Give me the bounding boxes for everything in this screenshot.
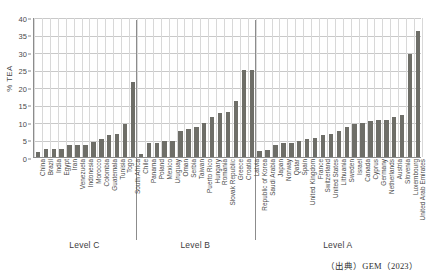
chart-figure: 0510152025303540 % TEA ChinaBrazilIndiaE… (0, 0, 426, 274)
x-axis-tick-label: Romania (221, 159, 228, 185)
bar (162, 141, 166, 157)
bar (147, 143, 151, 157)
y-axis-title: % TEA (5, 49, 14, 109)
y-axis-tick-mark (28, 141, 31, 142)
x-axis-tick-label: United Arab Emirates (419, 159, 426, 220)
group-caption: Level B (180, 240, 210, 250)
x-axis-tick-label: Serbia (190, 159, 197, 178)
bar (178, 131, 182, 157)
bar (99, 139, 103, 157)
bar (281, 143, 285, 157)
bar (416, 31, 420, 157)
x-axis-tick-label: Qatar (293, 159, 300, 175)
x-axis-tick-label: Latvia (253, 159, 260, 176)
x-axis-tick-label: India (55, 159, 62, 173)
y-axis-tick-label: 35 (18, 32, 27, 41)
source-note: （出典）GEM（2023） (326, 259, 419, 271)
bars-layer (34, 18, 421, 157)
x-axis-tick-label: Oman (182, 159, 189, 177)
bar (250, 70, 254, 158)
x-axis-tick-label: Japan (277, 159, 284, 177)
bar (123, 124, 127, 157)
bar (360, 123, 364, 157)
x-axis-tick-label: Colombia (103, 159, 110, 186)
x-axis-tick-label: Canada (364, 159, 371, 182)
y-axis-tick-label: 30 (18, 49, 27, 58)
bar (36, 152, 40, 157)
bar (226, 112, 230, 158)
x-axis-tick-label: Republic of Korea (261, 159, 268, 211)
x-axis-tick-label: South Africa (134, 159, 141, 194)
bar (376, 120, 380, 157)
y-axis-tick-mark (28, 158, 31, 159)
bar (75, 145, 79, 157)
x-axis-tick-label: Slovenia (404, 159, 411, 184)
group-caption: Level C (69, 240, 99, 250)
x-axis-tick-label: Lithuania (340, 159, 347, 185)
x-axis-tick-label: United Kingdom (309, 159, 316, 205)
x-axis-tick-label: Egypt (63, 159, 70, 176)
bar (218, 113, 222, 157)
y-axis-tick-mark (28, 106, 31, 107)
group-captions: Level CLevel BLevel A (0, 240, 426, 254)
bar (305, 139, 309, 157)
bar (345, 127, 349, 157)
bar (91, 142, 95, 157)
y-axis-tick-mark (28, 71, 31, 72)
x-axis-tick-label: Israel (356, 159, 363, 175)
y-axis-tick-mark (28, 18, 31, 19)
x-axis-tick-label: Chile (142, 159, 149, 174)
x-axis-tick-label: Saudi Arabia (269, 159, 276, 196)
bar (242, 70, 246, 157)
bar (289, 143, 293, 157)
x-axis-tick-label: Norway (285, 159, 292, 181)
bar (139, 154, 143, 157)
x-axis-tick-label: Sweden (348, 159, 355, 182)
bar (368, 121, 372, 157)
x-axis-tick-label: Togo (126, 159, 133, 173)
x-axis-tick-label: Switzerland (324, 159, 331, 193)
x-axis-tick-label: Puerto Rico (206, 159, 213, 193)
bar (352, 124, 356, 157)
x-axis-tick-label: Austria (396, 159, 403, 179)
bar (155, 143, 159, 157)
x-axis-tick-label: Panama (150, 159, 157, 183)
x-axis-tick-label: Taiwan (198, 159, 205, 179)
bar (52, 149, 56, 157)
x-axis-tick-label: Iran (71, 159, 78, 170)
x-axis-tick-label: Tunisia (119, 159, 126, 180)
gridline-vertical (422, 18, 423, 157)
y-axis-tick-label: 40 (18, 14, 27, 23)
x-axis-tick-label: Hungary (214, 159, 221, 184)
x-axis-tick-label: Cyprus (372, 159, 379, 180)
y-axis-tick-mark (28, 123, 31, 124)
x-axis-tick-label: Brazil (47, 159, 54, 175)
bar (186, 129, 190, 157)
bar (44, 149, 48, 157)
x-axis-tick-label: Morocco (95, 159, 102, 184)
x-axis-tick-label: Luxembourg (412, 159, 419, 195)
x-axis-tick-label: Mexico (166, 159, 173, 180)
bar (337, 131, 341, 157)
x-axis-tick-label: Germany (380, 159, 387, 186)
x-axis-tick-label: Greece (237, 159, 244, 180)
bar (265, 150, 269, 157)
bar (83, 145, 87, 157)
x-axis-tick-label: Poland (158, 159, 165, 179)
bar (313, 138, 317, 157)
plot-area (33, 18, 421, 158)
x-axis-tick-label: Guatemala (111, 159, 118, 191)
x-axis-tick-label: Slovak Republic (229, 159, 236, 206)
x-axis-tick-label: China (39, 159, 46, 176)
bar (115, 134, 119, 157)
x-axis-labels: ChinaBrazilIndiaEgyptIranVenezuelaIndone… (33, 159, 421, 239)
group-caption: Level A (323, 240, 352, 250)
bar (194, 127, 198, 157)
bar (384, 120, 388, 157)
bar (234, 101, 238, 157)
bar (59, 149, 63, 157)
bar (107, 135, 111, 157)
y-axis-tick-mark (28, 88, 31, 89)
y-axis-tick-mark (28, 36, 31, 37)
bar (297, 141, 301, 157)
